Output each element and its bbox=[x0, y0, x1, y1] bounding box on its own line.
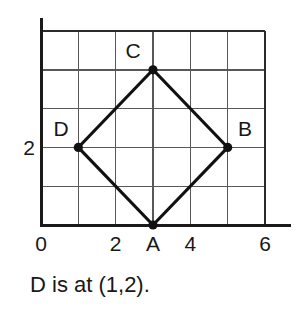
vertex-label-b: B bbox=[238, 118, 252, 139]
vertex-point-d bbox=[74, 143, 83, 152]
figure-caption: D is at (1,2). bbox=[30, 272, 150, 298]
x-axis-tick-4: 4 bbox=[184, 233, 196, 254]
x-axis-tick-2: 2 bbox=[110, 233, 122, 254]
vertex-point-b bbox=[223, 143, 232, 152]
vertex-label-c: C bbox=[125, 40, 140, 61]
coordinate-plot bbox=[0, 0, 305, 318]
vertex-label-d: D bbox=[53, 118, 68, 139]
vertex-point-a bbox=[148, 220, 157, 229]
x-axis-tick-6: 6 bbox=[259, 233, 271, 254]
x-axis-tick-0: 0 bbox=[35, 233, 47, 254]
vertex-point-c bbox=[148, 65, 157, 74]
figure-container: C B D 2 0 2 A 4 6 D is at (1,2). bbox=[0, 0, 305, 318]
x-axis-tick-a: A bbox=[146, 233, 160, 254]
grid-vertical-lines bbox=[78, 31, 227, 225]
y-axis-tick-2: 2 bbox=[23, 137, 35, 158]
